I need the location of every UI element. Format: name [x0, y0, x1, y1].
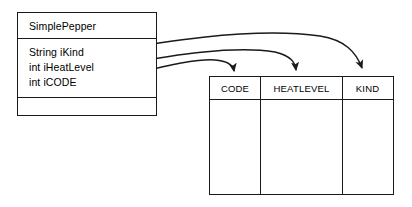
table-cell-kind	[343, 100, 392, 194]
uml-class-box: SimplePepper String iKind int iHeatLevel…	[17, 12, 157, 116]
table-cell-code	[210, 100, 261, 194]
class-attribute-ikind: String iKind	[29, 45, 156, 60]
class-attribute-iheatlevel: int iHeatLevel	[29, 60, 156, 75]
class-attribute-icode: int iCODE	[29, 75, 156, 90]
diagram-canvas: SimplePepper String iKind int iHeatLevel…	[0, 0, 412, 207]
class-operations-compartment	[18, 98, 156, 115]
table-row	[210, 100, 393, 194]
table-column-header-heatlevel: HEATLEVEL	[261, 77, 343, 99]
class-name-compartment: SimplePepper	[18, 13, 156, 39]
class-name-label: SimplePepper	[29, 20, 96, 32]
table-header-row: CODE HEATLEVEL KIND	[210, 77, 393, 100]
table-column-header-code: CODE	[210, 77, 261, 99]
class-attributes-compartment: String iKind int iHeatLevel int iCODE	[18, 39, 156, 98]
database-table: CODE HEATLEVEL KIND	[209, 76, 394, 195]
table-column-header-kind: KIND	[343, 77, 392, 99]
table-cell-heatlevel	[261, 100, 343, 194]
